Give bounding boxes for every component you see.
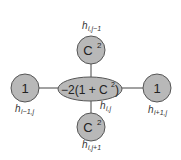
- node-center: −2(1 + C 2 ): [58, 77, 122, 101]
- stencil-diagram: C 2 h i,j−1 −2(1 + C 2 ) h i,j 1 h i−1,j…: [0, 0, 181, 160]
- svg-text:i,j−1: i,j−1: [88, 25, 101, 33]
- svg-text:−2(1 + C: −2(1 + C: [61, 83, 108, 97]
- label-left: h i−1,j: [15, 103, 34, 116]
- node-bottom: C 2: [77, 113, 105, 141]
- svg-text:i,j+1: i,j+1: [88, 144, 101, 152]
- svg-text:i,j: i,j: [106, 105, 112, 113]
- svg-text:i−1,j: i−1,j: [21, 108, 34, 116]
- svg-text:i+1,j: i+1,j: [154, 109, 167, 117]
- svg-text:1: 1: [153, 81, 160, 96]
- label-top: h i,j−1: [82, 20, 101, 33]
- label-center: h i,j: [100, 100, 112, 113]
- svg-text:1: 1: [21, 81, 28, 96]
- node-top: C 2: [77, 36, 105, 64]
- svg-text:C: C: [83, 120, 92, 135]
- svg-text:2: 2: [97, 118, 102, 127]
- label-right: h i+1,j: [148, 104, 167, 117]
- svg-text:): ): [115, 83, 119, 97]
- node-left: 1: [11, 74, 39, 102]
- node-right: 1: [143, 74, 171, 102]
- svg-text:C: C: [83, 43, 92, 58]
- svg-text:2: 2: [97, 41, 102, 50]
